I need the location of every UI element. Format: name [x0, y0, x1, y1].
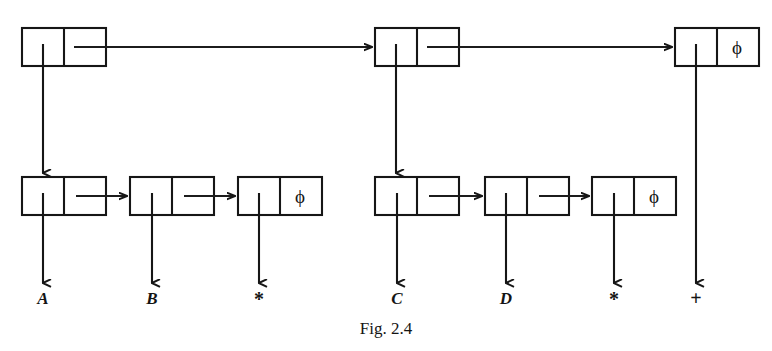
leaf-label-c: C [391, 289, 403, 308]
leaf-label-a: A [36, 289, 48, 308]
list-node-bottom-3 [238, 177, 322, 215]
null-marker-phi-bottom-3: ϕ [295, 186, 305, 207]
leaf-label-b: B [145, 289, 157, 308]
leaf-label-star-2: * [609, 288, 619, 310]
leaf-label-star-1: * [254, 288, 264, 310]
leaf-label-d: D [499, 289, 512, 308]
leaf-label-plus: + [690, 287, 701, 309]
list-node-bottom-6 [592, 177, 676, 215]
figure-linked-list-2-4: ϕ ϕ ϕ A B * C D * + Fig. 2.4 [0, 0, 772, 351]
list-node-top-3 [675, 28, 759, 66]
linked-list-diagram: ϕ ϕ ϕ A B * C D * + Fig. 2.4 [0, 0, 772, 351]
null-marker-phi-top-3: ϕ [732, 37, 742, 58]
figure-caption: Fig. 2.4 [360, 319, 413, 338]
null-marker-phi-bottom-6: ϕ [649, 186, 659, 207]
